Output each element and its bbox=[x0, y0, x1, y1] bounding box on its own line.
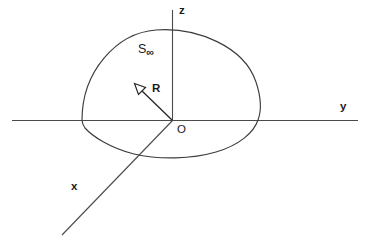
origin-label: O bbox=[177, 124, 186, 136]
y-axis-label: y bbox=[340, 101, 346, 113]
radius-label: R bbox=[152, 83, 160, 95]
figure-canvas: z y x O R S∞ bbox=[0, 0, 371, 244]
x-axis-label: x bbox=[71, 181, 77, 193]
surface-label: S∞ bbox=[138, 43, 154, 58]
x-axis-line bbox=[62, 121, 173, 236]
z-axis-label: z bbox=[179, 5, 185, 17]
coordinate-diagram-svg bbox=[0, 0, 371, 244]
radius-vector-line bbox=[141, 90, 172, 120]
surface-boundary-curve bbox=[82, 30, 260, 158]
surface-label-subscript: ∞ bbox=[146, 46, 154, 58]
